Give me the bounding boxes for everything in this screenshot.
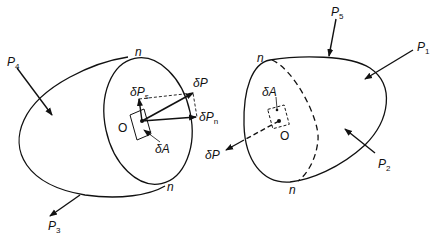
- label-dp-left: δP: [193, 76, 208, 90]
- label-da-right: δA: [262, 85, 277, 99]
- label-n-bottom-left: n: [167, 180, 174, 194]
- label-o-right: O: [280, 129, 289, 143]
- label-p4: P4: [7, 55, 20, 71]
- left-body: P4 P3 n n O δA δPs δP δPn: [7, 45, 218, 235]
- right-body: P5 P1 P2 n n O δA δP: [205, 5, 430, 197]
- vector-dp-right-dashed: [244, 121, 279, 140]
- vector-dp-left: [142, 93, 193, 121]
- label-da-left: δA: [155, 142, 170, 156]
- label-p2: P2: [378, 157, 391, 173]
- label-dpn: δPn: [199, 110, 218, 126]
- label-p5: P5: [331, 5, 344, 21]
- force-arrow-p1: [365, 50, 413, 79]
- diagram-canvas: P4 P3 n n O δA δPs δP δPn P5: [0, 0, 432, 240]
- vector-dpn: [142, 117, 196, 121]
- vector-dp-right: [226, 140, 244, 150]
- label-dp-right: δP: [205, 148, 220, 162]
- label-n-top-left: n: [135, 45, 142, 59]
- label-n-bottom-right: n: [289, 183, 296, 197]
- label-p3: P3: [48, 219, 61, 235]
- label-dps: δPs: [130, 85, 149, 101]
- label-o-left: O: [118, 121, 127, 135]
- force-arrow-p5: [329, 19, 336, 56]
- pointer-da-right-dot: [276, 109, 279, 112]
- label-p1: P1: [417, 40, 430, 56]
- force-arrow-p3: [50, 195, 80, 216]
- label-n-top-right: n: [257, 51, 264, 65]
